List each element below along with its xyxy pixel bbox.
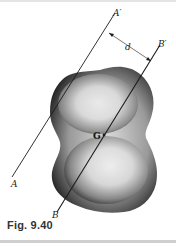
bottom-border [0,240,176,243]
label-centroid: G [93,131,101,141]
parallel-axis-diagram: A′ B′ d G A B [0,0,176,247]
body-shape [50,67,157,213]
label-a-top: A′ [112,8,122,18]
label-distance: d [125,42,131,52]
figure-caption: Fig. 9.40 [7,219,53,231]
label-a-bottom: A [10,179,18,189]
label-b-top: B′ [157,39,167,49]
centroid-dot [103,134,106,137]
